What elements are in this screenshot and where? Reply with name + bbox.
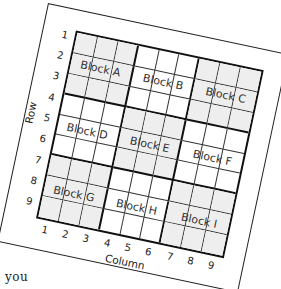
column-number-7: 7 bbox=[163, 250, 177, 263]
column-number-5: 5 bbox=[121, 241, 135, 254]
column-number-2: 2 bbox=[58, 228, 72, 241]
row-number-8: 8 bbox=[27, 174, 41, 187]
grid-cell bbox=[202, 231, 227, 256]
row-number-4: 4 bbox=[44, 91, 58, 104]
row-axis-label: Row bbox=[23, 101, 39, 125]
column-number-4: 4 bbox=[100, 236, 114, 249]
footer-text: you bbox=[5, 270, 28, 284]
row-number-5: 5 bbox=[40, 111, 54, 124]
sudoku-diagram: Block A Block B Block C Block D Block E … bbox=[0, 0, 281, 289]
column-number-8: 8 bbox=[184, 254, 198, 267]
row-number-9: 9 bbox=[22, 194, 36, 207]
row-number-7: 7 bbox=[31, 153, 45, 166]
column-number-6: 6 bbox=[141, 245, 155, 258]
diagram-frame: Block A Block B Block C Block D Block E … bbox=[0, 3, 281, 289]
row-number-1: 1 bbox=[58, 28, 72, 41]
column-number-9: 9 bbox=[204, 259, 218, 272]
column-number-3: 3 bbox=[79, 232, 93, 245]
row-number-3: 3 bbox=[49, 69, 63, 82]
column-number-1: 1 bbox=[38, 223, 52, 236]
column-axis-label: Column bbox=[104, 252, 146, 272]
row-number-2: 2 bbox=[53, 49, 67, 62]
row-number-6: 6 bbox=[36, 132, 50, 145]
